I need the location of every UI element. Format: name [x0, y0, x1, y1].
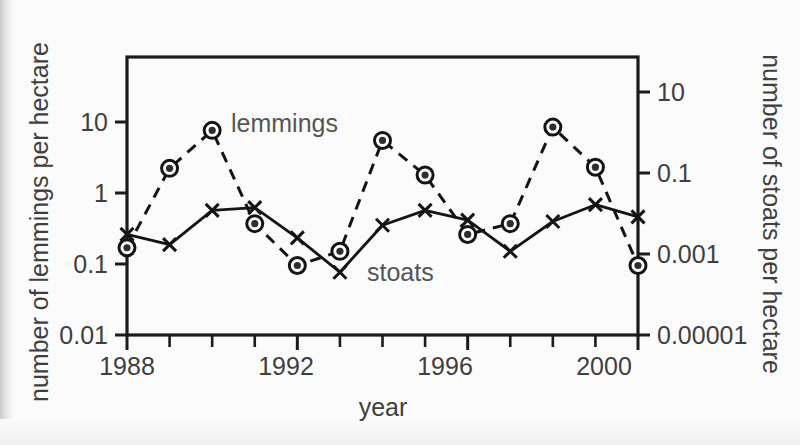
lemmings-point-core-1993 — [336, 248, 343, 255]
x-tick-label-1992: 1992 — [258, 352, 314, 380]
right-tick-label-0.00001: 0.00001 — [657, 321, 747, 349]
lemmings-point-core-1991 — [251, 220, 258, 227]
left-tick-label-0.01: 0.01 — [59, 321, 108, 349]
left-axis-title: number of lemmings per hectare — [25, 42, 53, 402]
lemmings-point-core-1996 — [464, 231, 471, 238]
lemmings-point-core-1994 — [379, 137, 386, 144]
x-tick-label-1996: 1996 — [417, 352, 473, 380]
population-log-line-chart: 10 1 0.1 0.01 10 0.1 0.001 0.00001 1988 … — [0, 0, 800, 445]
x-axis-tick-labels: 1988 1992 1996 2000 — [99, 352, 632, 380]
lemmings-series-markers — [119, 119, 646, 273]
left-tick-label-1: 1 — [94, 179, 108, 207]
right-tick-label-0.1: 0.1 — [657, 159, 692, 187]
stoats-point-1994 — [376, 219, 389, 232]
stoats-point-1993 — [333, 266, 346, 279]
lemmings-point-core-1997 — [507, 220, 514, 227]
lemmings-point-core-1988 — [123, 244, 130, 251]
lemmings-series-label: lemmings — [231, 109, 338, 137]
stoats-point-1992 — [291, 231, 304, 244]
x-axis-title: year — [359, 393, 408, 421]
left-tick-label-10: 10 — [80, 108, 108, 136]
plot-frame — [127, 57, 638, 335]
lemmings-point-core-1999 — [592, 164, 599, 171]
right-axis-tick-labels: 10 0.1 0.001 0.00001 — [657, 78, 747, 349]
lemmings-point-core-1989 — [166, 165, 173, 172]
lemmings-point-core-1992 — [294, 262, 301, 269]
right-tick-label-10: 10 — [657, 78, 685, 106]
left-axis-tick-labels: 10 1 0.1 0.01 — [59, 108, 108, 349]
left-tick-label-0.1: 0.1 — [73, 250, 108, 278]
x-axis-ticks — [127, 335, 638, 350]
lemmings-point-core-1998 — [549, 124, 556, 131]
right-tick-label-0.001: 0.001 — [657, 240, 720, 268]
lemmings-point-core-1995 — [421, 171, 428, 178]
stoats-series-label: stoats — [367, 258, 434, 286]
right-axis-title: number of stoats per hectare — [758, 54, 786, 374]
stoats-point-1997 — [504, 245, 517, 258]
figure-page: 10 1 0.1 0.01 10 0.1 0.001 0.00001 1988 … — [0, 0, 800, 445]
x-tick-label-2000: 2000 — [576, 352, 632, 380]
lemmings-point-core-1990 — [209, 127, 216, 134]
x-tick-label-1988: 1988 — [99, 352, 155, 380]
stoats-point-1998 — [546, 215, 559, 228]
lemmings-point-core-2000 — [634, 262, 641, 269]
